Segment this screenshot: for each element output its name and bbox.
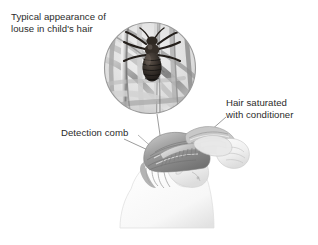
label-hair-line2: with conditioner [226, 109, 293, 120]
illustration-artwork [0, 0, 318, 245]
label-louse-line1: Typical appearance of [11, 11, 106, 22]
label-detection-comb: Detection comb [61, 127, 128, 139]
label-louse-line2: louse in child's hair [11, 23, 93, 34]
label-hair-saturated-with-conditioner: Hair saturated with conditioner [226, 97, 293, 120]
illustration-figure: Typical appearance of louse in child's h… [0, 0, 318, 245]
magnified-louse-circle [100, 18, 204, 120]
label-comb-line1: Detection comb [61, 127, 128, 138]
label-hair-line1: Hair saturated [226, 97, 287, 108]
child-head-scene [120, 127, 249, 228]
label-typical-appearance-of-louse: Typical appearance of louse in child's h… [11, 11, 106, 34]
